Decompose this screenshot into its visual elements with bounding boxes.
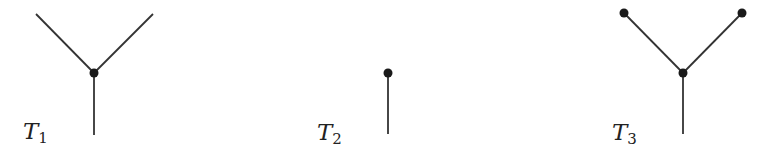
tree-label-t2-main: T (317, 119, 332, 145)
tree-label-t3-subscript: 3 (627, 130, 637, 148)
tree-edge-t3-0 (624, 13, 683, 73)
tree-node-t3-0 (620, 9, 629, 18)
tree-label-t1-subscript: 1 (38, 129, 48, 147)
tree-label-t2-subscript: 2 (332, 130, 342, 148)
tree-label-t2: T2 (317, 121, 342, 147)
tree-label-t1-main: T (23, 118, 38, 144)
tree-node-t3-1 (738, 9, 747, 18)
tree-edge-t3-1 (683, 13, 742, 73)
tree-diagram (0, 0, 770, 159)
tree-label-t3-main: T (612, 119, 627, 145)
tree-node-t3-2 (679, 69, 688, 78)
tree-node-t2-0 (384, 69, 393, 78)
tree-nodes (90, 9, 747, 78)
tree-edge-t1-0 (36, 14, 94, 73)
tree-node-t1-0 (90, 69, 99, 78)
tree-label-t3: T3 (612, 121, 637, 147)
tree-edge-t1-1 (94, 14, 153, 73)
tree-label-t1: T1 (23, 120, 48, 146)
